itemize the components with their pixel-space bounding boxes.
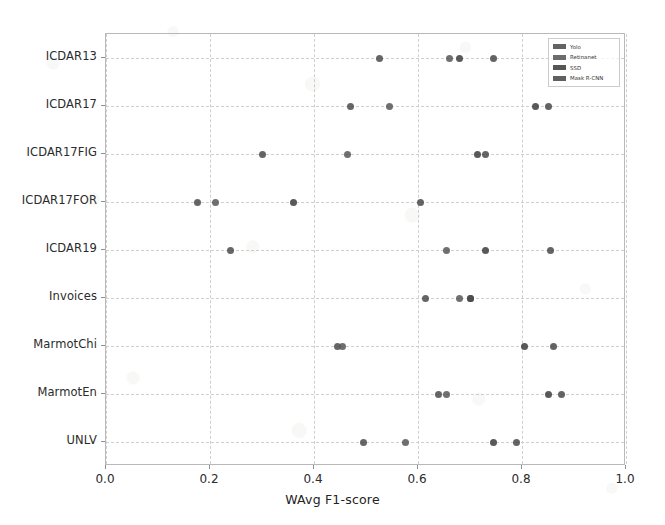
data-point	[422, 295, 429, 302]
data-point	[227, 247, 234, 254]
data-point	[513, 439, 520, 446]
data-point	[347, 103, 354, 110]
x-tick-label: 0.4	[303, 472, 322, 486]
data-point	[550, 343, 557, 350]
data-point	[446, 55, 453, 62]
data-point	[456, 295, 463, 302]
data-point	[259, 151, 266, 158]
legend-label-yolo: Yolo	[570, 44, 581, 50]
gridline-vertical	[418, 34, 419, 464]
data-point	[360, 439, 367, 446]
legend-item-mask-r-cnn[interactable]: Mask R-CNN	[553, 74, 616, 83]
gridline-vertical	[314, 34, 315, 464]
gridline-vertical	[106, 34, 107, 464]
data-point	[532, 103, 539, 110]
data-point	[402, 439, 409, 446]
legend-swatch-retinanet	[553, 55, 566, 60]
gridline-vertical	[210, 34, 211, 464]
y-tick-label: ICDAR17FIG	[0, 145, 97, 159]
y-tick-label: UNLV	[0, 433, 97, 447]
data-point	[467, 295, 474, 302]
y-tick-label: ICDAR19	[0, 241, 97, 255]
data-point	[376, 55, 383, 62]
data-point	[545, 391, 552, 398]
gridline-horizontal	[106, 202, 624, 203]
data-point	[482, 151, 489, 158]
x-tick-mark	[105, 465, 106, 469]
y-tick-label: MarmotChi	[0, 337, 97, 351]
x-tick-label: 1.0	[615, 472, 634, 486]
legend-label-ssd: SSD	[570, 65, 581, 71]
data-point	[490, 439, 497, 446]
data-point	[545, 103, 552, 110]
x-tick-label: 0.8	[511, 472, 530, 486]
x-tick-mark	[625, 465, 626, 469]
y-tick-label: ICDAR17FOR	[0, 193, 97, 207]
legend-item-retinanet[interactable]: Retinanet	[553, 53, 616, 62]
data-point	[417, 199, 424, 206]
data-point	[339, 343, 346, 350]
figure-canvas: ICDAR13ICDAR17ICDAR17FIGICDAR17FORICDAR1…	[0, 0, 665, 525]
x-tick-mark	[521, 465, 522, 469]
legend-label-mask-r-cnn: Mask R-CNN	[570, 75, 603, 81]
plot-area	[105, 33, 625, 465]
y-tick-label: ICDAR13	[0, 49, 97, 63]
x-tick-label: 0.6	[407, 472, 426, 486]
x-tick-mark	[313, 465, 314, 469]
data-point	[490, 55, 497, 62]
x-tick-mark	[417, 465, 418, 469]
legend-label-retinanet: Retinanet	[570, 54, 596, 60]
data-point	[386, 103, 393, 110]
gridline-horizontal	[106, 58, 624, 59]
legend-item-ssd[interactable]: SSD	[553, 63, 616, 72]
x-tick-label: 0.2	[199, 472, 218, 486]
data-point	[435, 391, 442, 398]
data-point	[547, 247, 554, 254]
legend: Yolo Retinanet SSD Mask R-CNN	[548, 38, 620, 87]
y-tick-label: MarmotEn	[0, 385, 97, 399]
gridline-horizontal	[106, 154, 624, 155]
x-tick-label: 0.0	[95, 472, 114, 486]
legend-swatch-yolo	[553, 44, 566, 49]
gridline-vertical	[626, 34, 627, 464]
legend-swatch-ssd	[553, 65, 566, 70]
data-point	[443, 247, 450, 254]
legend-swatch-mask-r-cnn	[553, 76, 566, 81]
x-tick-mark	[209, 465, 210, 469]
gridline-horizontal	[106, 298, 624, 299]
y-tick-label: ICDAR17	[0, 97, 97, 111]
x-axis-label: WAvg F1-score	[0, 492, 665, 507]
data-point	[194, 199, 201, 206]
data-point	[558, 391, 565, 398]
data-point	[474, 151, 481, 158]
data-point	[443, 391, 450, 398]
y-tick-label: Invoices	[0, 289, 97, 303]
data-point	[290, 199, 297, 206]
legend-item-yolo[interactable]: Yolo	[553, 42, 616, 51]
data-point	[344, 151, 351, 158]
data-point	[482, 247, 489, 254]
data-point	[521, 343, 528, 350]
gridline-vertical	[522, 34, 523, 464]
gridline-horizontal	[106, 346, 624, 347]
data-point	[456, 55, 463, 62]
data-point	[212, 199, 219, 206]
